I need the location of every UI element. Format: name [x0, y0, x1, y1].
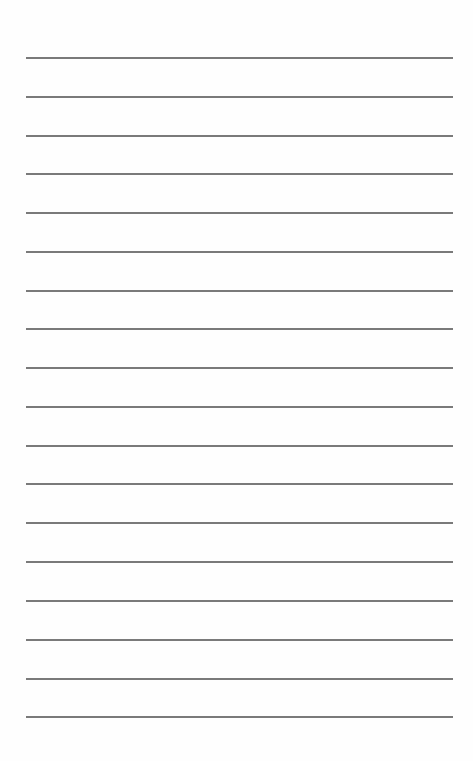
- lined-paper-page: [0, 0, 473, 761]
- ruled-line: [26, 600, 453, 602]
- ruled-line: [26, 678, 453, 680]
- ruled-line: [26, 522, 453, 524]
- ruled-line: [26, 135, 453, 137]
- ruled-line: [26, 96, 453, 98]
- ruled-line: [26, 639, 453, 641]
- ruled-line: [26, 212, 453, 214]
- ruled-line: [26, 716, 453, 718]
- ruled-line: [26, 173, 453, 175]
- ruled-line: [26, 445, 453, 447]
- ruled-line: [26, 290, 453, 292]
- ruled-line: [26, 328, 453, 330]
- ruled-line: [26, 367, 453, 369]
- ruled-line: [26, 561, 453, 563]
- ruled-line: [26, 483, 453, 485]
- ruled-line: [26, 57, 453, 59]
- ruled-line: [26, 251, 453, 253]
- ruled-line: [26, 406, 453, 408]
